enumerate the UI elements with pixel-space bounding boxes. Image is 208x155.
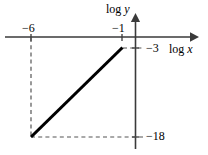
log-log-plot-figure: log y log x −6 −1 −3 −18	[0, 0, 208, 155]
y-tick-label-neg3: −3	[146, 42, 159, 54]
y-axis-arrowhead	[131, 13, 140, 22]
data-line-segment	[31, 48, 123, 138]
x-axis-label: log x	[169, 43, 193, 55]
x-axis-arrowhead	[190, 32, 199, 42]
x-tick-label-neg1: −1	[112, 22, 125, 34]
y-axis-label: log y	[106, 3, 130, 15]
x-tick-label-neg6: −6	[22, 22, 35, 34]
y-tick-label-neg18: −18	[146, 130, 165, 142]
